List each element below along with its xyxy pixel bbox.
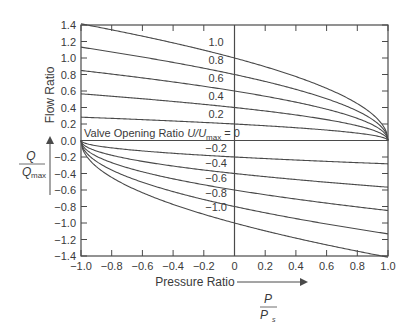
curve-label: −1.0 [205,201,227,213]
y-tick-label: −0.4 [54,168,76,180]
curve-label: −0.8 [205,187,227,199]
x-tick-label: 0.4 [288,260,303,272]
x-tick-label: 0.8 [350,260,365,272]
y-tick-label: 0.8 [61,69,76,81]
curve-label: −0.4 [205,157,227,169]
y-tick-label: −0.6 [54,184,76,196]
x-tick-label: 0 [231,260,237,272]
x-fraction-sub: s [272,316,276,323]
curve-label: 0.8 [208,54,223,66]
x-tick-label: −1.0 [70,260,92,272]
x-fraction-numerator: P [264,292,272,306]
x-tick-label: −0.4 [162,260,184,272]
y-tick-label: −0.8 [54,201,76,213]
chart-svg: 1.41.21.00.80.60.40.20.0−0.2−0.4−0.6−0.8… [0,0,415,328]
y-tick-label: 0.2 [61,118,76,130]
y-tick-label: 0.0 [61,135,76,147]
x-tick-label: −0.6 [132,260,154,272]
flow-ratio-chart: 1.41.21.00.80.60.40.20.0−0.2−0.4−0.6−0.8… [0,0,415,328]
y-tick-label: 1.2 [61,36,76,48]
y-axis-arrow-head-icon [46,136,54,144]
curve-label: −0.6 [205,172,227,184]
x-axis-arrow-head-icon [300,278,308,286]
y-fraction-sub: max [31,171,46,180]
x-tick-label: 1.0 [380,260,395,272]
curve-label: 0.2 [208,108,223,120]
valve-opening-annotation: Valve Opening Ratio U/Umax = 0 [84,127,240,142]
x-tick-label: 0.2 [258,260,273,272]
y-tick-label: 1.4 [61,19,76,31]
x-tick-label: −0.8 [101,260,123,272]
x-axis-label: Pressure Ratio [155,275,235,289]
curve-label: 0.6 [208,72,223,84]
y-axis-label: Flow Ratio [43,66,57,123]
x-tick-label: −0.2 [193,260,215,272]
y-fraction-denominator: Q [22,165,31,179]
y-tick-label: −0.2 [54,151,76,163]
curve-label: −0.2 [205,142,227,154]
curve-label: 1.0 [208,36,223,48]
y-tick-label: 0.4 [61,102,76,114]
x-tick-label: 0.6 [319,260,334,272]
curve-label: 0.4 [208,90,223,102]
y-fraction-numerator: Q [26,149,35,163]
y-tick-label: 0.6 [61,85,76,97]
y-tick-label: −1.0 [54,217,76,229]
y-tick-label: 1.0 [61,52,76,64]
y-tick-label: −1.2 [54,234,76,246]
x-fraction-denominator: P [260,308,268,322]
